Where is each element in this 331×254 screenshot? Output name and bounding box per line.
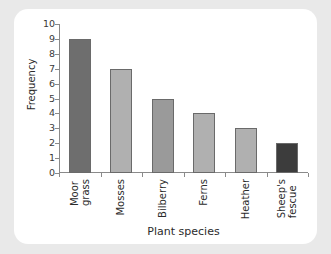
x-axis-tick bbox=[59, 173, 60, 177]
y-axis-title: Frequency bbox=[26, 50, 37, 120]
y-axis-tick-label: 3 bbox=[33, 123, 55, 133]
x-axis-title: Plant species bbox=[59, 225, 308, 238]
bar bbox=[235, 128, 257, 173]
bar bbox=[110, 69, 132, 173]
x-axis-tick bbox=[142, 173, 143, 177]
bar bbox=[193, 113, 215, 173]
bar bbox=[152, 99, 174, 174]
x-axis-tick bbox=[267, 173, 268, 177]
y-axis-tick-label: 2 bbox=[33, 138, 55, 148]
bar-column bbox=[235, 24, 257, 173]
bar-column bbox=[69, 24, 91, 173]
bar-chart-plot: 012345678910 Frequency MoorgrassMossesBi… bbox=[14, 9, 317, 244]
bar bbox=[69, 39, 91, 173]
chart-card: 012345678910 Frequency MoorgrassMossesBi… bbox=[14, 9, 317, 244]
bar-series bbox=[59, 24, 308, 173]
bar-column bbox=[193, 24, 215, 173]
y-axis-tick-label: 1 bbox=[33, 153, 55, 163]
bar-column bbox=[152, 24, 174, 173]
x-axis-tick bbox=[308, 173, 309, 177]
y-axis-tick-label: 0 bbox=[33, 168, 55, 178]
y-axis-tick-label: 10 bbox=[33, 19, 55, 29]
x-axis-tick bbox=[184, 173, 185, 177]
x-axis-tick bbox=[225, 173, 226, 177]
y-axis-tick-label: 9 bbox=[33, 34, 55, 44]
bar-column bbox=[276, 24, 298, 173]
bar bbox=[276, 143, 298, 173]
bar-column bbox=[110, 24, 132, 173]
x-axis-tick bbox=[101, 173, 102, 177]
